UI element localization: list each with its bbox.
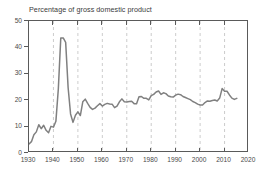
- y-axis-label-10: 10: [8, 122, 22, 129]
- x-axis-tick-bottom-2000: [199, 148, 200, 152]
- x-axis-tick-top-1940: [52, 21, 53, 25]
- y-axis-label-50: 50: [8, 17, 22, 24]
- y-axis-label-20: 20: [8, 96, 22, 103]
- chart-container: Percentage of gross domestic product 010…: [0, 0, 267, 174]
- x-axis-tick-top-2000: [199, 21, 200, 25]
- plot-area: [28, 20, 248, 152]
- data-series-group: [29, 38, 237, 144]
- chart-title: Percentage of gross domestic product: [29, 5, 152, 14]
- x-axis-label-1960: 1960: [88, 156, 114, 163]
- x-axis-label-2010: 2010: [211, 156, 237, 163]
- x-axis-label-1980: 1980: [137, 156, 163, 163]
- x-axis-tick-top-1990: [175, 21, 176, 25]
- y-axis-tick-50: [24, 20, 28, 21]
- x-axis-tick-bottom-1980: [150, 148, 151, 152]
- x-axis-label-1950: 1950: [64, 156, 90, 163]
- x-axis-tick-top-2010: [224, 21, 225, 25]
- x-axis-tick-bottom-1960: [101, 148, 102, 152]
- x-axis-tick-top-1950: [77, 21, 78, 25]
- x-axis-tick-bottom-1990: [175, 148, 176, 152]
- y-axis-label-30: 30: [8, 69, 22, 76]
- y-axis-tick-10: [24, 126, 28, 127]
- y-axis-tick-0: [24, 152, 28, 153]
- x-axis-label-1930: 1930: [15, 156, 41, 163]
- x-axis-label-1970: 1970: [113, 156, 139, 163]
- x-axis-tick-top-1960: [101, 21, 102, 25]
- x-axis-tick-bottom-1970: [126, 148, 127, 152]
- x-axis-label-2000: 2000: [186, 156, 212, 163]
- x-axis-label-1990: 1990: [162, 156, 188, 163]
- x-axis-label-2020: 2020: [235, 156, 261, 163]
- y-axis-tick-30: [24, 73, 28, 74]
- gridlines-group: [53, 21, 224, 153]
- y-axis-label-0: 0: [8, 149, 22, 156]
- x-axis-tick-bottom-1940: [52, 148, 53, 152]
- y-axis-tick-20: [24, 99, 28, 100]
- x-axis-tick-top-1980: [150, 21, 151, 25]
- x-axis-tick-bottom-2010: [224, 148, 225, 152]
- y-axis-tick-40: [24, 46, 28, 47]
- x-axis-tick-bottom-1950: [77, 148, 78, 152]
- y-axis-label-40: 40: [8, 43, 22, 50]
- x-axis-label-1940: 1940: [39, 156, 65, 163]
- x-axis-tick-top-1970: [126, 21, 127, 25]
- data-line: [29, 38, 237, 144]
- plot-svg: [29, 21, 249, 153]
